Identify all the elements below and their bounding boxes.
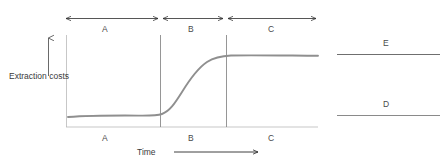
reference-line-label-e: E <box>383 38 389 49</box>
y-axis-label: Extraction costs <box>9 70 64 83</box>
region-label-bottom-c: C <box>268 133 274 144</box>
region-label-top-b: B <box>188 24 194 35</box>
extraction-cost-curve <box>68 55 318 117</box>
region-label-top-c: C <box>268 24 274 35</box>
region-label-bottom-a: A <box>102 133 108 144</box>
diagram-svg <box>0 0 443 163</box>
y-axis-label-text: Extraction costs <box>9 71 69 81</box>
plot-frame <box>66 35 318 127</box>
region-label-top-a: A <box>102 24 108 35</box>
region-label-bottom-b: B <box>188 133 194 144</box>
x-axis-label: Time <box>137 147 156 158</box>
phase-dividers <box>161 35 227 127</box>
reference-line-label-d: D <box>383 99 389 110</box>
figure-canvas: Extraction costs Time A B C A B C E D <box>0 0 443 163</box>
